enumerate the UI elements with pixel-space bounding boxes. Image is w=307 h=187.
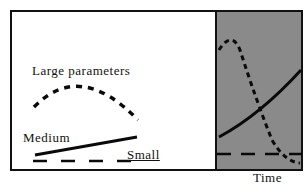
large-curve-left xyxy=(34,86,138,120)
small-label: Small xyxy=(127,147,160,163)
shaded-time-panel xyxy=(216,11,302,170)
time-axis-label: Time xyxy=(253,170,282,186)
large-parameters-label: Large parameters xyxy=(32,63,130,79)
medium-label: Medium xyxy=(23,130,70,146)
diagram-figure: Large parameters Medium Small Time xyxy=(0,0,307,187)
